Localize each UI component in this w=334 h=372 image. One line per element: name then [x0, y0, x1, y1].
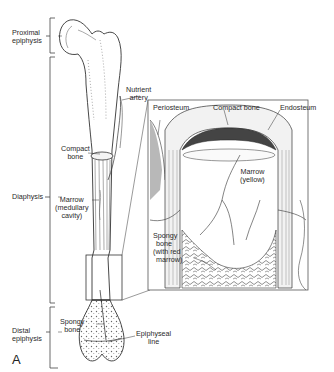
shaft-cross-section	[91, 152, 113, 160]
label-periosteum: Periosteum	[153, 104, 189, 112]
label-marrow-medullary: Marrow (medullary cavity)	[55, 196, 89, 220]
label-epiphyseal-line: Epiphyseal line	[136, 330, 171, 346]
bone-diagram-artwork	[0, 0, 334, 372]
label-proximal-epiphysis: Proximal epiphysis	[12, 29, 42, 45]
label-marrow-yellow: Marrow (yellow)	[240, 168, 265, 184]
label-diaphysis: Diaphysis	[12, 193, 43, 201]
panel-letter: A	[12, 352, 21, 367]
label-endosteum: Endosteum	[280, 104, 316, 112]
label-distal-epiphysis: Distal epiphysis	[12, 327, 42, 343]
label-nutrient-artery: Nutrient artery	[126, 86, 151, 102]
label-compact-bone: Compact bone	[61, 145, 90, 161]
label-spongy-bone-red-marrow: Spongy bone (with red marrow)	[153, 232, 182, 264]
distal-epiphysis-shape	[79, 300, 124, 361]
region-brackets	[45, 18, 58, 368]
label-spongy-bone: Spongy bone	[60, 318, 84, 334]
label-inset-compact-bone: Compact bone	[213, 104, 260, 112]
